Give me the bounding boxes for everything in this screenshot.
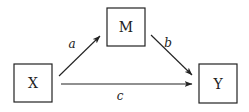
edge-label-b: b bbox=[164, 36, 172, 50]
node-x-label: X bbox=[28, 75, 38, 91]
node-m: M bbox=[107, 8, 145, 46]
mediation-diagram: a b c X M Y bbox=[0, 0, 249, 112]
node-m-label: M bbox=[119, 19, 133, 35]
edge-x-to-y: c bbox=[61, 84, 192, 103]
edge-x-to-m: a bbox=[59, 36, 100, 76]
node-y: Y bbox=[199, 64, 237, 103]
edge-label-a: a bbox=[68, 37, 75, 51]
edge-label-c: c bbox=[117, 89, 124, 103]
node-y-label: Y bbox=[212, 76, 223, 92]
arrow-a bbox=[59, 36, 100, 76]
node-x: X bbox=[14, 64, 52, 102]
edge-m-to-y: b bbox=[151, 35, 192, 75]
